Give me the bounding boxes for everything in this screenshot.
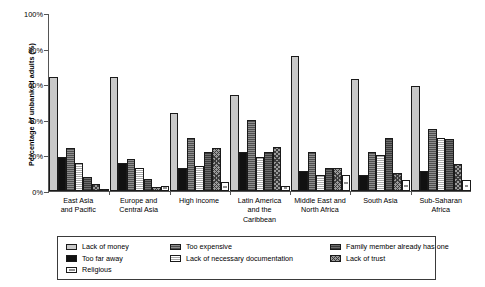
bar	[291, 56, 300, 191]
bar	[325, 168, 334, 191]
bar	[316, 175, 325, 191]
legend-item[interactable]: Family member already has one	[330, 241, 449, 253]
y-tick-label: 60%	[28, 81, 43, 90]
y-tick-label: 20%	[28, 152, 43, 161]
bar	[100, 189, 109, 191]
y-tick-label: 80%	[28, 45, 43, 54]
x-axis-label: South Asia	[350, 196, 410, 224]
bar	[385, 138, 394, 191]
legend-label: Too far away	[82, 254, 123, 263]
bar	[170, 113, 179, 191]
bar	[462, 180, 471, 191]
chart-legend: Lack of moneyToo expensiveFamily member …	[57, 236, 436, 280]
x-axis-label: Sub-SaharanAfrica	[411, 196, 471, 224]
bar	[264, 152, 273, 191]
legend-swatch-icon	[66, 255, 77, 262]
bar	[420, 171, 429, 191]
bar	[281, 186, 290, 191]
bar	[368, 152, 377, 191]
legend-item[interactable]: Too far away	[66, 253, 170, 265]
x-tick	[170, 191, 171, 195]
legend-label: Lack of money	[82, 242, 129, 251]
bar-group	[350, 14, 410, 191]
bar-group	[411, 14, 471, 191]
bar	[437, 138, 446, 191]
x-tick	[290, 191, 291, 195]
bar	[376, 155, 385, 191]
bar	[342, 175, 351, 191]
bar	[204, 152, 213, 191]
legend-item[interactable]: Too expensive	[170, 241, 330, 253]
legend-swatch-icon	[330, 255, 341, 262]
x-tick	[109, 191, 110, 195]
bar	[351, 79, 360, 191]
bar	[402, 180, 411, 191]
bar-chart: Percentage of unbanked adults (%) 0%20%4…	[0, 0, 485, 287]
bar-group	[230, 14, 290, 191]
bar	[212, 148, 221, 191]
bar	[221, 182, 230, 191]
bar-group	[290, 14, 350, 191]
x-axis-label: East Asiaand Pacific	[48, 196, 108, 224]
x-tick	[411, 191, 412, 195]
legend-swatch-icon	[330, 244, 341, 251]
legend-label: Religious	[82, 265, 112, 274]
bar	[110, 77, 119, 191]
bar	[428, 129, 437, 191]
bar	[58, 157, 67, 191]
bar	[411, 86, 420, 191]
bar	[161, 186, 170, 191]
bar	[333, 168, 342, 191]
legend-swatch-icon	[170, 244, 181, 251]
legend-item[interactable]: Lack of necessary documentation	[170, 253, 330, 265]
bar	[127, 159, 136, 191]
bar	[187, 138, 196, 191]
bar-groups	[49, 14, 471, 191]
bar	[83, 177, 92, 191]
bar-group	[109, 14, 169, 191]
bar	[66, 148, 75, 191]
y-tick	[44, 192, 49, 193]
legend-label: Lack of necessary documentation	[186, 254, 293, 263]
bar-group	[49, 14, 109, 191]
bar	[393, 173, 402, 191]
bar	[92, 184, 101, 191]
y-tick-label: 40%	[28, 116, 43, 125]
legend-item[interactable]: Lack of trust	[330, 253, 449, 265]
bar	[49, 77, 58, 191]
x-axis-label: High income	[169, 196, 229, 224]
bar	[299, 171, 308, 191]
bar-group	[170, 14, 230, 191]
x-axis-label: Latin Americaand the Caribbean	[229, 196, 289, 224]
bar	[273, 147, 282, 192]
legend-item[interactable]: Religious	[66, 264, 170, 276]
bar	[256, 157, 265, 191]
bar	[230, 95, 239, 191]
x-axis-label: Middle East andNorth Africa	[290, 196, 350, 224]
bar	[454, 164, 463, 191]
x-axis-label: Europe andCentral Asia	[108, 196, 168, 224]
bar	[152, 187, 161, 191]
legend-item[interactable]: Lack of money	[66, 241, 170, 253]
legend-swatch-icon	[66, 267, 77, 274]
legend-label: Lack of trust	[346, 254, 385, 263]
y-tick-label: 0%	[32, 188, 43, 197]
bar	[75, 163, 84, 191]
bar	[359, 175, 368, 191]
bar	[195, 166, 204, 191]
bar	[135, 168, 144, 191]
bar	[178, 168, 187, 191]
bar	[308, 152, 317, 191]
x-tick	[230, 191, 231, 195]
x-axis-labels: East Asiaand PacificEurope andCentral As…	[48, 196, 471, 224]
bar	[247, 120, 256, 191]
bar	[144, 179, 153, 191]
legend-label: Family member already has one	[346, 242, 449, 251]
bar	[239, 152, 248, 191]
y-tick-label: 100%	[24, 10, 43, 19]
legend-swatch-icon	[170, 255, 181, 262]
bar	[118, 163, 127, 191]
legend-label: Too expensive	[186, 242, 232, 251]
plot-area: 0%20%40%60%80%100%	[48, 14, 471, 192]
legend-swatch-icon	[66, 244, 77, 251]
